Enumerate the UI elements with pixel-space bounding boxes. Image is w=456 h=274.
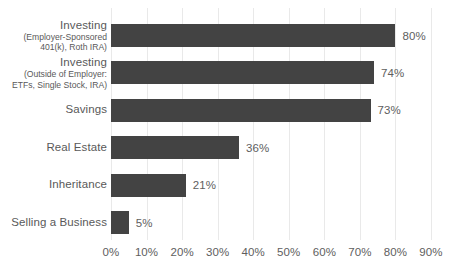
category-label-main: Investing	[0, 56, 107, 70]
category-label: Investing(Outside of Employer:ETFs, Sing…	[0, 56, 107, 90]
category-label-main: Inheritance	[0, 178, 107, 192]
x-tick-label: 10%	[127, 246, 167, 258]
bar[interactable]	[111, 211, 129, 234]
category-label: Savings	[0, 103, 107, 117]
x-tick-label: 80%	[375, 246, 415, 258]
bar-value-label: 73%	[378, 104, 401, 116]
bar[interactable]	[111, 24, 395, 47]
bar[interactable]	[111, 61, 374, 84]
plot-area: 80%74%73%36%21%5%	[111, 8, 431, 240]
x-tick-label: 90%	[411, 246, 451, 258]
x-tick-label: 30%	[198, 246, 238, 258]
bar[interactable]	[111, 99, 371, 122]
bar-row[interactable]: 80%	[111, 24, 431, 47]
bar-row[interactable]: 73%	[111, 99, 431, 122]
category-label-main: Savings	[0, 103, 107, 117]
bar[interactable]	[111, 174, 186, 197]
category-label-sub: (Outside of Employer:	[0, 69, 107, 79]
x-tick-label: 70%	[340, 246, 380, 258]
gridline-90pct	[431, 8, 432, 240]
bar-chart: 80%74%73%36%21%5% Investing(Employer-Spo…	[0, 0, 456, 274]
category-label-sub: 401(k), Roth IRA)	[0, 42, 107, 52]
category-label-sub: (Employer-Sponsored	[0, 32, 107, 42]
category-label: Inheritance	[0, 178, 107, 192]
category-label-main: Selling a Business	[0, 216, 107, 230]
bar-value-label: 21%	[193, 179, 216, 191]
category-label-main: Investing	[0, 19, 107, 33]
category-label: Selling a Business	[0, 216, 107, 230]
x-tick-label: 40%	[233, 246, 273, 258]
category-label-main: Real Estate	[0, 141, 107, 155]
x-tick-label: 0%	[91, 246, 131, 258]
bar-row[interactable]: 5%	[111, 211, 431, 234]
bar-row[interactable]: 36%	[111, 136, 431, 159]
bar-row[interactable]: 21%	[111, 174, 431, 197]
category-label: Investing(Employer-Sponsored401(k), Roth…	[0, 19, 107, 53]
category-label-sub: ETFs, Single Stock, IRA)	[0, 80, 107, 90]
x-tick-label: 50%	[269, 246, 309, 258]
category-label: Real Estate	[0, 141, 107, 155]
bar-value-label: 5%	[136, 217, 153, 229]
x-tick-label: 60%	[304, 246, 344, 258]
x-tick-label: 20%	[162, 246, 202, 258]
bar[interactable]	[111, 136, 239, 159]
bar-row[interactable]: 74%	[111, 61, 431, 84]
bar-value-label: 36%	[246, 142, 269, 154]
bar-value-label: 74%	[381, 67, 404, 79]
bar-value-label: 80%	[402, 30, 425, 42]
